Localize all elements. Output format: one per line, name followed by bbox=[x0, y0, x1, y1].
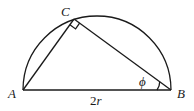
label-point-b: B bbox=[177, 86, 185, 101]
semicircle-arc bbox=[23, 16, 171, 90]
label-angle-phi: ϕ bbox=[139, 74, 146, 89]
label-base-2r: 2r bbox=[90, 93, 103, 108]
side-ac bbox=[23, 19, 74, 90]
label-point-c: C bbox=[61, 4, 70, 19]
semicircle-triangle-diagram: C A B ϕ 2r bbox=[0, 0, 194, 111]
label-point-a: A bbox=[7, 86, 16, 101]
angle-arc-phi bbox=[157, 82, 160, 90]
side-cb bbox=[74, 19, 171, 90]
right-angle-marker bbox=[70, 23, 80, 29]
label-base-variable: r bbox=[97, 93, 103, 108]
